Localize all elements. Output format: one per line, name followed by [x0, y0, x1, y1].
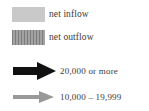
major-arrow-cell [0, 61, 60, 81]
legend-item-net-outflow: net outflow [0, 28, 149, 47]
net-inflow-swatch-cell [0, 7, 46, 22]
legend-label-flow-major: 20,000 or more [60, 67, 118, 76]
map-flow-legend: net inflow net outflow 20,000 or more 10… [0, 0, 149, 111]
thick-black-right-arrow-icon [13, 61, 56, 81]
legend-label-flow-minor: 10,000 – 19,999 [60, 93, 122, 102]
legend-item-flow-major: 20,000 or more [0, 60, 149, 82]
legend-item-net-inflow: net inflow [0, 5, 149, 24]
net-outflow-swatch-cell [0, 30, 46, 45]
legend-label-net-inflow: net inflow [46, 10, 89, 20]
minor-arrow-cell [0, 90, 60, 104]
thin-gray-right-arrow-icon [13, 90, 54, 104]
legend-item-flow-minor: 10,000 – 19,999 [0, 87, 149, 107]
solid-gray-swatch-icon [12, 7, 45, 22]
legend-label-net-outflow: net outflow [46, 33, 94, 43]
vertical-striped-gray-swatch-icon [12, 30, 45, 45]
